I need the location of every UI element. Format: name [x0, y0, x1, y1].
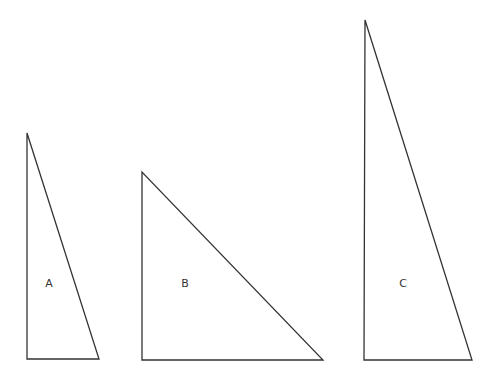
triangle-label-c: C	[399, 277, 407, 290]
triangle-label-b: B	[181, 277, 189, 290]
triangle-a	[27, 133, 99, 359]
diagram-canvas: ABC	[0, 0, 494, 381]
triangle-c	[364, 20, 472, 360]
triangle-b	[142, 172, 323, 360]
triangle-label-a: A	[45, 277, 53, 290]
triangles-svg: ABC	[0, 0, 494, 381]
